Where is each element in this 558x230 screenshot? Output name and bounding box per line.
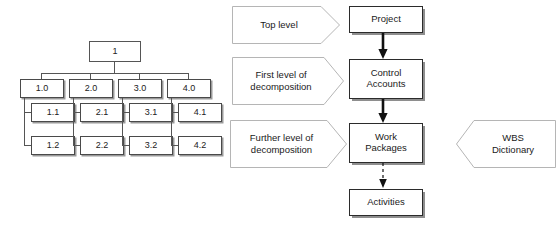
wbs-node-1-0-label: 1.0 [36, 83, 49, 93]
flow-node-work-packages[interactable]: Work Packages [349, 123, 423, 163]
callout-further-level-label: Further level of decomposition [246, 132, 317, 156]
wbs-node-2-1-label: 2.1 [96, 107, 109, 117]
wbs-node-3-0-label: 3.0 [134, 83, 147, 93]
flow-node-work-packages-label: Work Packages [365, 132, 407, 153]
wbs-connector-stub-4-1 [171, 112, 178, 113]
wbs-node-3-2-label: 3.2 [145, 140, 158, 150]
wbs-node-1-0[interactable]: 1.0 [20, 79, 64, 98]
wbs-node-1-2[interactable]: 1.2 [31, 136, 75, 155]
wbs-node-2-2[interactable]: 2.2 [80, 136, 124, 155]
wbs-node-2-0[interactable]: 2.0 [69, 79, 113, 98]
wbs-node-4-1-label: 4.1 [194, 107, 207, 117]
wbs-node-1-1[interactable]: 1.1 [31, 103, 75, 122]
flow-node-project-label: Project [371, 14, 401, 25]
diagram-canvas: 1 1.0 1.1 1.2 2.0 2.1 [0, 0, 558, 230]
wbs-connector-stub-2-2 [73, 145, 80, 146]
wbs-node-4-2[interactable]: 4.2 [178, 136, 222, 155]
wbs-connector-stub-4-2 [171, 145, 178, 146]
wbs-node-1-2-label: 1.2 [47, 140, 60, 150]
wbs-node-4-2-label: 4.2 [194, 140, 207, 150]
flow-node-project[interactable]: Project [349, 6, 423, 33]
wbs-node-root[interactable]: 1 [89, 41, 141, 62]
flow-node-control-accounts[interactable]: Control Accounts [349, 59, 423, 99]
wbs-connector-stub-1-2 [24, 145, 31, 146]
wbs-node-3-2[interactable]: 3.2 [129, 136, 173, 155]
wbs-node-2-2-label: 2.2 [96, 140, 109, 150]
callout-top-level[interactable]: Top level [232, 6, 340, 44]
callout-further-level[interactable]: Further level of decomposition [230, 120, 347, 168]
wbs-node-2-0-label: 2.0 [85, 83, 98, 93]
wbs-connector-stub-2-1 [73, 112, 80, 113]
wbs-connector-bus [41, 73, 188, 74]
wbs-node-1-1-label: 1.1 [47, 107, 60, 117]
arrow-project-to-control-accounts [376, 33, 390, 60]
callout-first-level[interactable]: First level of decomposition [232, 57, 344, 105]
wbs-node-4-0[interactable]: 4.0 [167, 79, 211, 98]
wbs-connector-spine-3 [122, 98, 123, 146]
wbs-node-root-label: 1 [112, 46, 117, 56]
wbs-connector-spine-4 [171, 98, 172, 146]
callout-top-level-label: Top level [256, 19, 302, 31]
flow-node-activities-label: Activities [367, 197, 404, 208]
callout-wbs-dictionary[interactable]: WBS Dictionary [456, 120, 556, 168]
wbs-connector-spine-1 [24, 98, 25, 146]
wbs-connector-spine-2 [73, 98, 74, 146]
arrow-work-packages-to-activities [376, 163, 390, 190]
wbs-connector-stub-3-2 [122, 145, 129, 146]
wbs-node-3-0[interactable]: 3.0 [118, 79, 162, 98]
wbs-connector-root-stem [114, 62, 115, 73]
callout-wbs-dictionary-label: WBS Dictionary [488, 132, 538, 156]
wbs-node-4-1[interactable]: 4.1 [178, 103, 222, 122]
wbs-connector-stub-1-1 [24, 112, 31, 113]
flow-node-activities[interactable]: Activities [349, 189, 423, 216]
wbs-connector-stub-3-1 [122, 112, 129, 113]
callout-first-level-label: First level of decomposition [246, 69, 315, 93]
wbs-node-3-1[interactable]: 3.1 [129, 103, 173, 122]
wbs-node-3-1-label: 3.1 [145, 107, 158, 117]
arrow-control-accounts-to-work-packages [376, 99, 390, 124]
flow-node-control-accounts-label: Control Accounts [366, 68, 405, 89]
wbs-node-2-1[interactable]: 2.1 [80, 103, 124, 122]
wbs-node-4-0-label: 4.0 [183, 83, 196, 93]
